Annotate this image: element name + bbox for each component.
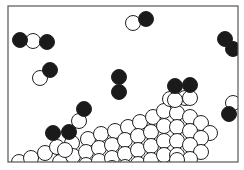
dark-atom — [46, 126, 61, 141]
lattice-atom — [58, 143, 73, 158]
dark-pair-top-right — [218, 32, 241, 57]
dark-atom — [43, 63, 58, 78]
light-atom — [168, 93, 183, 108]
diatomic-molecule-top-center — [126, 12, 154, 31]
dark-pair-lower-left — [46, 125, 77, 141]
dark-atom — [77, 102, 92, 117]
dark-atom — [13, 33, 28, 48]
dark-atom — [40, 35, 55, 50]
lattice-atom — [170, 153, 185, 168]
dark-atom — [183, 78, 198, 93]
molecule-left-lower — [72, 102, 92, 129]
diatomic-molecule-mid-left — [33, 63, 58, 86]
diagram-canvas — [0, 0, 244, 169]
dark-atom — [139, 12, 154, 27]
lattice-atom — [24, 151, 39, 166]
vertical-dark-pair-center — [112, 70, 127, 100]
molecule-diagram — [0, 0, 244, 169]
triatomic-molecule-left — [13, 33, 55, 50]
dark-atom — [112, 85, 127, 100]
lattice-atom — [94, 127, 109, 142]
dark-atom — [168, 79, 183, 94]
dark-atom — [112, 70, 127, 85]
lattice-atom — [118, 160, 133, 170]
dark-atom — [62, 125, 77, 140]
dark-atom — [222, 107, 237, 122]
lattice-atom — [92, 154, 107, 169]
